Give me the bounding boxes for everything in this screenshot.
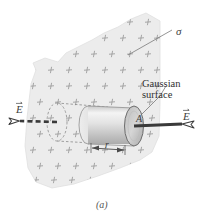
vector-arrow-icon (16, 100, 23, 105)
label-field-right: E (183, 111, 190, 123)
label-sigma: σ (176, 26, 181, 38)
label-area: A (136, 114, 142, 125)
physics-figure-gauss-sheet: σ Gaussian surface E E A r (a) (0, 0, 208, 224)
label-gaussian-surface: Gaussian surface (142, 78, 181, 100)
label-gaussian-line2: surface (142, 89, 181, 100)
label-gaussian-line1: Gaussian (142, 78, 181, 89)
label-field-left: E (16, 104, 23, 116)
label-radius: r (105, 141, 109, 151)
vector-arrow-icon (183, 107, 190, 112)
figure-caption: (a) (96, 200, 108, 211)
gauss-cylinder (79, 106, 144, 146)
charged-sheet (25, 13, 160, 188)
